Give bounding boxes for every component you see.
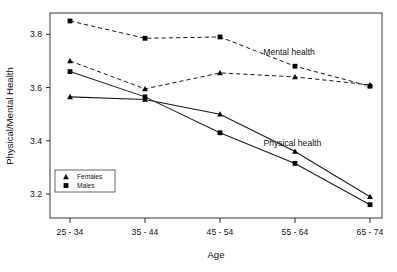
x-tick-label: 45 - 54 — [207, 227, 234, 237]
x-tick-label: 65 - 74 — [357, 227, 384, 237]
x-tick-label: 25 - 34 — [57, 227, 84, 237]
y-tick-label: 3.6 — [30, 83, 42, 93]
x-tick-label: 35 - 44 — [132, 227, 159, 237]
legend-marker-square — [64, 183, 69, 188]
chart-container: 3.23.43.63.8 25 - 3435 - 4445 - 5455 - 6… — [0, 0, 397, 272]
x-axis-title: Age — [207, 249, 224, 260]
x-tick-label: 55 - 64 — [282, 227, 309, 237]
data-point-marker — [368, 202, 373, 207]
data-point-marker — [293, 64, 298, 69]
data-point-marker — [68, 19, 73, 24]
data-point-marker — [68, 69, 73, 74]
data-point-marker — [293, 161, 298, 166]
data-point-marker — [143, 36, 148, 41]
physical-mental-health-line-chart: 3.23.43.63.8 25 - 3435 - 4445 - 5455 - 6… — [0, 0, 397, 272]
y-tick-label: 3.8 — [30, 29, 42, 39]
legend: FemalesMales — [55, 170, 115, 192]
y-tick-label: 3.2 — [30, 189, 42, 199]
series-annotation-label: Physical health — [263, 138, 321, 148]
legend-label: Males — [77, 182, 95, 189]
legend-label: Females — [77, 173, 103, 180]
y-tick-label: 3.4 — [30, 136, 42, 146]
data-point-marker — [218, 130, 223, 135]
data-point-marker — [218, 35, 223, 40]
y-axis-title: Physical/Mental Health — [4, 67, 15, 165]
series-annotation-label: Mental health — [263, 47, 315, 57]
